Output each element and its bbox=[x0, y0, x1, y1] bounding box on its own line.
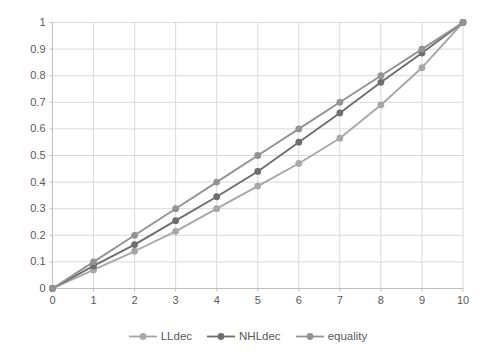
data-point-nhldec bbox=[254, 168, 261, 175]
legend-item-lldec: LLdec bbox=[129, 331, 192, 343]
y-tick-label: 0.2 bbox=[30, 229, 45, 241]
data-point-equality bbox=[90, 259, 97, 266]
data-point-equality bbox=[213, 179, 220, 186]
data-point-nhldec bbox=[336, 110, 343, 117]
y-tick-label: 0 bbox=[39, 282, 45, 294]
data-point-lldec bbox=[172, 228, 179, 235]
data-point-lldec bbox=[378, 102, 385, 109]
data-point-nhldec bbox=[295, 139, 302, 146]
y-tick-label: 0.4 bbox=[30, 176, 45, 188]
legend-item-equality: equality bbox=[296, 331, 368, 343]
data-point-lldec bbox=[295, 160, 302, 167]
data-point-equality bbox=[131, 232, 138, 239]
data-point-nhldec bbox=[131, 241, 138, 248]
x-tick-label: 6 bbox=[296, 294, 302, 306]
legend-label-nhldec: NHLdec bbox=[239, 331, 281, 343]
data-point-nhldec bbox=[172, 217, 179, 224]
data-point-lldec bbox=[131, 248, 138, 255]
data-point-equality bbox=[460, 19, 467, 26]
nhldec-line-marker-icon bbox=[207, 332, 235, 341]
legend-label-lldec: LLdec bbox=[161, 331, 192, 343]
x-tick-label: 2 bbox=[132, 294, 138, 306]
x-tick-label: 9 bbox=[419, 294, 425, 306]
legend-label-equality: equality bbox=[328, 331, 368, 343]
y-tick-label: 0.5 bbox=[30, 149, 45, 161]
x-tick-label: 10 bbox=[457, 294, 469, 306]
x-tick-label: 0 bbox=[49, 294, 55, 306]
data-point-nhldec bbox=[213, 193, 220, 200]
y-tick-label: 0.6 bbox=[30, 122, 45, 134]
x-tick-label: 5 bbox=[255, 294, 261, 306]
y-tick-label: 1 bbox=[39, 16, 45, 28]
line-chart: 01234567891000.10.20.30.40.50.60.70.80.9… bbox=[0, 0, 496, 351]
y-tick-label: 0.9 bbox=[30, 43, 45, 55]
x-tick-label: 7 bbox=[337, 294, 343, 306]
x-tick-label: 3 bbox=[173, 294, 179, 306]
data-point-equality bbox=[419, 46, 426, 53]
data-point-equality bbox=[254, 152, 261, 159]
data-point-equality bbox=[49, 285, 56, 292]
data-point-lldec bbox=[419, 64, 426, 71]
equality-line-marker-icon bbox=[296, 332, 324, 341]
data-point-equality bbox=[378, 72, 385, 79]
data-point-equality bbox=[336, 99, 343, 106]
data-point-lldec bbox=[213, 205, 220, 212]
y-tick-label: 0.3 bbox=[30, 202, 45, 214]
lldec-line-marker-icon bbox=[129, 332, 157, 341]
x-tick-label: 8 bbox=[378, 294, 384, 306]
y-tick-label: 0.7 bbox=[30, 96, 45, 108]
data-point-equality bbox=[172, 205, 179, 212]
data-point-lldec bbox=[336, 135, 343, 142]
data-point-equality bbox=[295, 125, 302, 132]
data-point-lldec bbox=[254, 183, 261, 190]
chart-legend: LLdec NHLdec equality bbox=[0, 331, 496, 343]
y-tick-label: 0.1 bbox=[30, 255, 45, 267]
x-tick-label: 1 bbox=[90, 294, 96, 306]
data-point-nhldec bbox=[378, 79, 385, 86]
x-tick-label: 4 bbox=[214, 294, 220, 306]
y-tick-label: 0.8 bbox=[30, 69, 45, 81]
chart-plot-area: 01234567891000.10.20.30.40.50.60.70.80.9… bbox=[0, 0, 496, 351]
legend-item-nhldec: NHLdec bbox=[207, 331, 281, 343]
